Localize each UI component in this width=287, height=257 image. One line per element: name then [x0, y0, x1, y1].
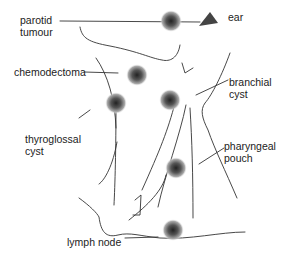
diagram-canvas: [0, 0, 287, 257]
label-branchial-line2: cyst: [229, 88, 272, 100]
label-parotid-line1: parotid: [20, 14, 53, 26]
label-thyroglossal-line1: thyroglossal: [25, 133, 81, 145]
lesion-lymph-node: [162, 219, 184, 241]
lesion-chemodectoma: [126, 64, 148, 86]
label-lymph-node: lymph node: [67, 236, 121, 248]
label-chemodectoma: chemodectoma: [14, 66, 86, 78]
label-thyroglossal-line2: cyst: [25, 145, 81, 157]
label-pharyngeal-line1: pharyngeal: [224, 140, 276, 152]
label-parotid-tumour: parotid tumour: [20, 14, 53, 38]
lesion-branchial-cyst: [159, 89, 181, 111]
neck-lumps-diagram: parotid tumour ear chemodectoma branchia…: [0, 0, 287, 257]
lesion-thyroglossal-cyst: [105, 92, 127, 114]
lesion-parotid-tumour: [160, 10, 182, 32]
label-parotid-line2: tumour: [20, 26, 53, 38]
ear-marker-icon: [199, 12, 218, 26]
leader-lines: [60, 21, 224, 238]
lesions: [105, 10, 187, 241]
label-pharyngeal-pouch: pharyngeal pouch: [224, 140, 276, 164]
lesion-pharyngeal-pouch: [165, 157, 187, 179]
neck-outline: [79, 27, 245, 238]
label-ear: ear: [228, 11, 243, 23]
label-branchial-cyst: branchial cyst: [229, 76, 272, 100]
label-branchial-line1: branchial: [229, 76, 272, 88]
label-thyroglossal-cyst: thyroglossal cyst: [25, 133, 81, 157]
label-pharyngeal-line2: pouch: [224, 152, 276, 164]
